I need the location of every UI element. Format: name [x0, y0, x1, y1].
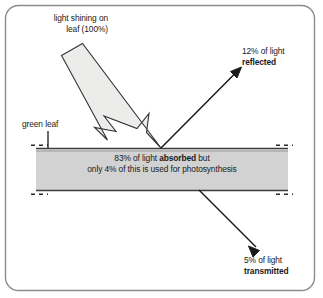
reflected-light-label: 12% of light reflected [242, 46, 318, 67]
transmitted-light-label: 5% of light transmitted [244, 255, 318, 276]
incident-light-label: light shining on leaf (100%) [0, 13, 108, 34]
reflected-light-label-line1: 12% of light [242, 46, 285, 56]
absorbed-label-line1-pre: 83% of light [114, 153, 159, 163]
reflected-light-label-line2: reflected [242, 57, 276, 67]
light-on-leaf-diagram: light shining on leaf (100%) 12% of ligh… [0, 0, 323, 298]
incident-light-label-line2: leaf (100%) [66, 24, 108, 34]
absorbed-label-line1-bold: absorbed [159, 153, 196, 163]
green-leaf-label: green leaf [22, 119, 58, 130]
absorbed-label-line2: only 4% of this is used for photosynthes… [87, 164, 236, 174]
diagram-canvas [0, 0, 323, 298]
transmitted-light-label-line2: transmitted [244, 266, 289, 276]
incident-light-label-line1: light shining on [54, 13, 108, 23]
transmitted-light-label-line1: 5% of light [244, 255, 282, 265]
absorbed-label-line1-post: but [196, 153, 210, 163]
absorbed-light-label: 83% of light absorbed but only 4% of thi… [36, 153, 288, 174]
